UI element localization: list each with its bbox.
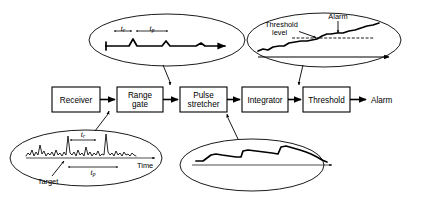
- td-threshold-label-line2: level: [272, 28, 288, 37]
- callout-threshold-detection: Threshold level Alarm: [247, 12, 401, 85]
- ro-dim-tr-subscript: r: [83, 134, 86, 140]
- rg-dim-tp-subscript: p: [151, 28, 155, 34]
- ro-dim-tp-subscript: p: [92, 172, 96, 178]
- block-pulse-stretcher[interactable]: Pulse stretcher: [180, 87, 227, 112]
- block-receiver[interactable]: Receiver: [52, 87, 100, 112]
- ro-time-label: Time: [137, 161, 153, 170]
- radar-block-diagram-figure: Receiver Range gate Pulse stretcher Inte…: [0, 0, 421, 200]
- leader-target: [52, 161, 64, 176]
- td-alarm-label: Alarm: [328, 12, 347, 21]
- rg-dim-tp-label: tp: [149, 24, 154, 33]
- block-pulse-stretcher-label-line1: Pulse: [193, 91, 214, 100]
- callout-integrator-output: [180, 114, 332, 191]
- block-integrator[interactable]: Integrator: [242, 87, 288, 112]
- leader-threshold-detection: [299, 65, 303, 85]
- callout-range-gate-output-ellipse: [89, 14, 245, 66]
- ro-target-label: Target: [38, 177, 59, 186]
- leader-threshold-level: [299, 32, 316, 38]
- block-pulse-stretcher-label-line2: stretcher: [188, 100, 220, 109]
- callout-range-gate-output: tr tp: [89, 14, 245, 85]
- rg-dim-tr-label: tr: [121, 24, 126, 33]
- rg-dim-tr-subscript: r: [123, 28, 126, 34]
- block-integrator-label: Integrator: [247, 96, 282, 105]
- diagram-canvas: Receiver Range gate Pulse stretcher Inte…: [0, 0, 421, 200]
- block-receiver-label: Receiver: [60, 96, 93, 105]
- callout-receiver-output: Time Target tr tp: [10, 111, 162, 186]
- leader-range-gate-output: [163, 65, 170, 85]
- block-threshold[interactable]: Threshold: [303, 87, 350, 112]
- output-alarm-label: Alarm: [371, 96, 393, 105]
- block-range-gate[interactable]: Range gate: [117, 87, 163, 112]
- block-range-gate-label-line2: gate: [132, 100, 148, 109]
- leader-integrator-output: [227, 114, 238, 139]
- ro-dim-tp-label: tp: [90, 168, 95, 177]
- leader-receiver-output: [95, 111, 109, 131]
- block-range-gate-label-line1: Range: [128, 91, 153, 100]
- ro-dim-tr-label: tr: [81, 130, 86, 139]
- rg-waveform-path: [106, 39, 225, 46]
- block-threshold-label: Threshold: [308, 96, 345, 105]
